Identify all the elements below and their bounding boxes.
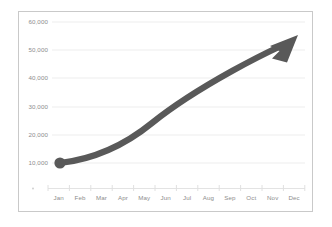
x-axis-label-oct: Oct bbox=[241, 194, 262, 201]
x-axis-label-aug: Aug bbox=[198, 194, 219, 201]
gridlines bbox=[52, 22, 305, 163]
y-axis-label-50000: 50,000 bbox=[12, 46, 48, 53]
x-axis-origin-dot bbox=[32, 188, 34, 190]
x-axis-label-apr: Apr bbox=[112, 194, 133, 201]
x-axis-label-jun: Jun bbox=[155, 194, 176, 201]
x-axis-label-dec: Dec bbox=[283, 194, 304, 201]
chart-container: 60,000 50,000 40,000 30,000 20,000 10,00… bbox=[0, 0, 332, 227]
data-series-growth bbox=[54, 35, 298, 169]
chart-plot-area bbox=[0, 0, 332, 227]
x-axis-label-feb: Feb bbox=[69, 194, 90, 201]
start-point-marker bbox=[54, 157, 65, 168]
y-axis-label-30000: 30,000 bbox=[12, 103, 48, 110]
x-axis bbox=[32, 185, 305, 191]
y-axis-label-40000: 40,000 bbox=[12, 74, 48, 81]
y-axis-label-60000: 60,000 bbox=[12, 18, 48, 25]
x-axis-label-may: May bbox=[134, 194, 155, 201]
x-axis-label-jul: Jul bbox=[176, 194, 197, 201]
y-axis-label-20000: 20,000 bbox=[12, 131, 48, 138]
x-axis-label-nov: Nov bbox=[262, 194, 283, 201]
x-axis-label-jan: Jan bbox=[48, 194, 69, 201]
x-axis-label-mar: Mar bbox=[91, 194, 112, 201]
x-axis-label-sep: Sep bbox=[219, 194, 240, 201]
trend-line bbox=[60, 46, 281, 163]
y-axis-label-10000: 10,000 bbox=[12, 159, 48, 166]
